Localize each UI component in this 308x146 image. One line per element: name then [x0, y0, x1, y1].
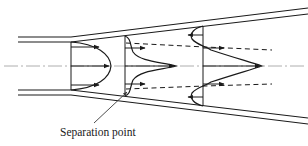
- separation-point-label: Separation point: [60, 126, 136, 139]
- flow-separation-figure: Separation point: [0, 0, 308, 146]
- diffuser-separation-diagram: Separation point: [0, 0, 308, 146]
- figure-background: [0, 0, 308, 146]
